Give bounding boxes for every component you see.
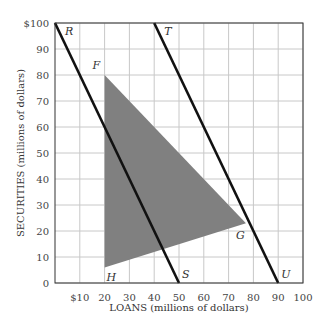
x-tick: 90 (272, 292, 285, 303)
x-tick: 80 (247, 292, 260, 303)
y-tick: 70 (36, 96, 49, 107)
label-g: G (236, 229, 245, 242)
label-u: U (281, 268, 291, 281)
x-tick: 100 (293, 292, 312, 303)
label-f: F (92, 59, 101, 72)
label-r: R (64, 25, 73, 38)
y-tick: 80 (36, 70, 49, 81)
label-h: H (106, 271, 117, 284)
x-axis-label: LOANS (millions of dollars) (109, 302, 248, 313)
y-tick: 20 (36, 226, 49, 237)
y-tick: 0 (43, 278, 49, 289)
y-axis-ticks: 0102030405060708090$100 (24, 18, 49, 289)
y-tick: 50 (36, 148, 49, 159)
y-tick: 40 (36, 174, 49, 185)
y-tick: $100 (24, 18, 49, 29)
x-tick: $10 (70, 292, 89, 303)
y-tick: 10 (36, 252, 49, 263)
y-tick: 60 (36, 122, 49, 133)
y-axis-label: SECURITIES (millions of dollars) (15, 69, 26, 237)
y-tick: 90 (36, 44, 49, 55)
chart: $102030405060708090100 01020304050607080… (0, 0, 324, 331)
y-tick: 30 (36, 200, 49, 211)
label-t: T (164, 25, 173, 38)
label-s: S (182, 268, 190, 281)
